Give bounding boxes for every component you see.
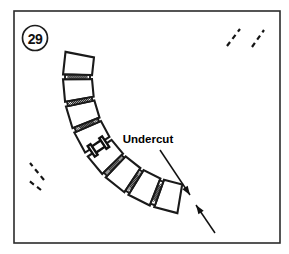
undercut-label: Undercut [123,133,174,145]
technical-diagram-svg: Undercut 29 [0,0,289,254]
figure-border-frame [14,11,280,243]
figure-panel: Undercut 29 [0,0,289,254]
figure-number-text: 29 [28,31,43,47]
figure-number-badge: 29 [23,26,48,51]
